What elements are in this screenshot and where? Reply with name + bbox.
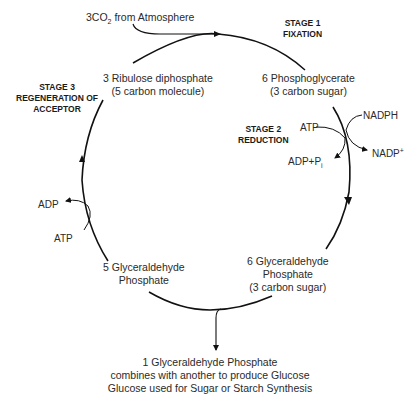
co2-label: 3CO2 from Atmosphere xyxy=(86,11,194,24)
stage-2-label: STAGE 2 REDUCTION xyxy=(238,124,289,146)
pga-name: 6 Phosphoglycerate xyxy=(262,72,355,85)
regen-atp-label: ATP xyxy=(54,233,73,245)
reduction-nadp-label: NADP+ xyxy=(372,148,404,160)
output-line-3: Glucose used for Sugar or Starch Synthes… xyxy=(0,382,420,395)
rubp-name: 3 Ribulose diphosphate xyxy=(103,72,213,85)
stage-1-label: STAGE 1 FIXATION xyxy=(283,18,322,40)
rubp-desc: (5 carbon molecule) xyxy=(103,85,213,98)
stage-2-name: REDUCTION xyxy=(238,135,289,146)
output-line-2: combines with another to produce Glucose xyxy=(0,369,420,382)
g3p6-label: 6 Glyceraldehyde Phosphate (3 carbon sug… xyxy=(247,255,329,294)
stage-1-number: STAGE 1 xyxy=(283,18,322,29)
stage-3-number: STAGE 3 xyxy=(16,82,98,93)
g3p6-name-line2: Phosphate xyxy=(247,268,329,281)
fixation-arrowhead xyxy=(214,31,221,37)
stage-3-name-line1: REGENERATION OF xyxy=(16,93,98,104)
regeneration-arc xyxy=(82,100,108,261)
regen-adp-label: ADP xyxy=(38,199,59,211)
pga-desc: (3 carbon sugar) xyxy=(262,85,355,98)
nadp-superscript: + xyxy=(400,147,404,154)
reduction-adp-label: ADP+Pi xyxy=(288,156,323,168)
g3p5-name-line2: Phosphate xyxy=(103,274,185,287)
g3p5-name: 5 Glyceraldehyde xyxy=(103,261,185,274)
co2-input-arrow xyxy=(133,24,215,34)
reduction-atp-label: ATP xyxy=(300,122,319,134)
stage-1-name: FIXATION xyxy=(283,29,322,40)
regen-atp-curve xyxy=(66,200,90,230)
co2-prefix: 3CO xyxy=(86,11,108,23)
calvin-cycle-diagram xyxy=(0,0,420,406)
bottom-arc xyxy=(149,292,272,310)
co2-suffix: from Atmosphere xyxy=(112,11,195,23)
adp-pi-text: ADP+P xyxy=(288,156,321,167)
reduction-arrowhead xyxy=(344,197,352,205)
output-line-1: 1 Glyceraldehyde Phosphate xyxy=(0,356,420,369)
fixation-arc xyxy=(133,34,305,70)
rubp-label: 3 Ribulose diphosphate (5 carbon molecul… xyxy=(103,72,213,98)
g3p5-label: 5 Glyceraldehyde Phosphate xyxy=(103,261,185,287)
output-label: 1 Glyceraldehyde Phosphate combines with… xyxy=(0,356,420,395)
stage-2-number: STAGE 2 xyxy=(238,124,289,135)
pi-subscript: i xyxy=(321,162,323,169)
stage-3-name-line2: ACCEPTOR xyxy=(16,104,98,115)
g3p6-name: 6 Glyceraldehyde xyxy=(247,255,329,268)
atp-in-curve xyxy=(316,127,345,158)
g3p6-desc: (3 carbon sugar) xyxy=(247,281,329,294)
reduction-nadph-label: NADPH xyxy=(363,110,398,122)
stage-3-label: STAGE 3 REGENERATION OF ACCEPTOR xyxy=(16,82,98,115)
nadp-text: NADP xyxy=(372,148,400,159)
output-arrow xyxy=(216,309,221,350)
pga-label: 6 Phosphoglycerate (3 carbon sugar) xyxy=(262,72,355,98)
